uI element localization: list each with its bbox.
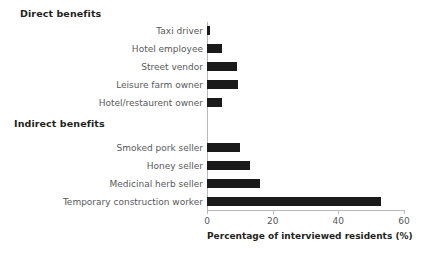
x-tick-mark <box>338 210 339 214</box>
bar-category-label: Street vendor <box>0 63 207 72</box>
bar-track <box>207 40 404 58</box>
bar-track <box>207 175 404 193</box>
bar-category-label: Smoked pork seller <box>0 144 207 153</box>
bar-row: Hotel employee <box>0 40 404 58</box>
bar <box>207 179 260 188</box>
bar-row: Honey seller <box>0 157 404 175</box>
bar-track <box>207 76 404 94</box>
bar-track <box>207 157 404 175</box>
bar-chart-figure: Direct benefits Indirect benefits Taxi d… <box>0 0 426 257</box>
x-axis-title: Percentage of interviewed residents (%) <box>207 231 407 241</box>
bar <box>207 26 210 35</box>
bar-category-label: Taxi driver <box>0 27 207 36</box>
bar-row: Leisure farm owner <box>0 76 404 94</box>
x-tick-mark <box>207 210 208 214</box>
bar <box>207 44 222 53</box>
bar-category-label: Leisure farm owner <box>0 81 207 90</box>
bar-category-label: Temporary construction worker <box>0 198 207 207</box>
bar-row: Taxi driver <box>0 22 404 40</box>
group-heading-direct: Direct benefits <box>20 8 101 19</box>
bar-track <box>207 94 404 112</box>
bar <box>207 98 222 107</box>
x-tick-label: 20 <box>267 216 278 226</box>
bar <box>207 197 381 206</box>
x-tick-label: 0 <box>204 216 210 226</box>
bar-category-label: Honey seller <box>0 162 207 171</box>
bar-track <box>207 139 404 157</box>
plot-area: Taxi driverHotel employeeStreet vendorLe… <box>207 22 404 210</box>
group-heading-indirect: Indirect benefits <box>14 118 105 129</box>
bar-category-label: Medicinal herb seller <box>0 180 207 189</box>
x-tick-label: 60 <box>398 216 409 226</box>
bar-track <box>207 58 404 76</box>
bar-category-label: Hotel employee <box>0 45 207 54</box>
bar-row: Hotel/restaurent owner <box>0 94 404 112</box>
bar-row: Street vendor <box>0 58 404 76</box>
bar-track <box>207 22 404 40</box>
x-tick-mark <box>273 210 274 214</box>
bar <box>207 143 240 152</box>
bar-category-label: Hotel/restaurent owner <box>0 99 207 108</box>
bar <box>207 62 237 71</box>
bar <box>207 80 238 89</box>
bar <box>207 161 250 170</box>
bar-track <box>207 193 404 211</box>
bar-row: Medicinal herb seller <box>0 175 404 193</box>
bar-row: Temporary construction worker <box>0 193 404 211</box>
bar-row: Smoked pork seller <box>0 139 404 157</box>
x-tick-label: 40 <box>333 216 344 226</box>
x-tick-mark <box>404 210 405 214</box>
